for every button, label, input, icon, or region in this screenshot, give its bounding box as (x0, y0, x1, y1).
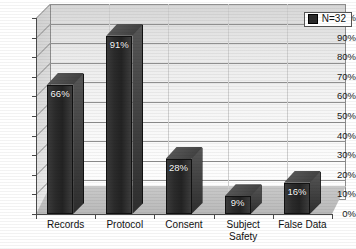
y-axis-tick-label: 50% (324, 111, 356, 121)
bar-value-label: 9% (225, 198, 251, 208)
legend: N=32 (304, 12, 352, 27)
bar: 9% (225, 184, 262, 214)
category-label-line: False Data (273, 219, 332, 231)
bar-front-face (106, 36, 132, 214)
category-label-line: Subject (214, 219, 273, 231)
gridline (50, 63, 346, 64)
y-axis-tick-label: 70% (324, 72, 356, 82)
bar: 28% (166, 147, 203, 214)
y-axis-tick-label: 80% (324, 52, 356, 62)
category-label: False Data (273, 219, 332, 231)
legend-label: N=32 (322, 14, 346, 24)
y-axis-tick-label: 60% (324, 91, 356, 101)
gridline (50, 141, 346, 142)
y-axis-tick-label: 30% (324, 150, 356, 160)
category-label-line: Records (36, 219, 95, 231)
category-label-line: Consent (154, 219, 213, 231)
category-label: Records (36, 219, 95, 231)
bar-side-face (132, 25, 143, 214)
bar-side-face (192, 148, 203, 214)
bar-value-label: 66% (47, 89, 73, 99)
gridline (50, 122, 346, 123)
category-label: Protocol (95, 219, 154, 231)
bar-front-face (47, 85, 73, 214)
gridline (50, 102, 346, 103)
legend-swatch-icon (308, 14, 318, 24)
gridline (50, 24, 346, 25)
x-axis-tick (332, 214, 333, 219)
category-label-line: Protocol (95, 219, 154, 231)
gridline (50, 4, 346, 5)
category-label-line: Safety (214, 231, 273, 243)
x-axis-line (36, 214, 332, 215)
bar-side-face (73, 74, 84, 214)
bar-value-label: 16% (284, 187, 310, 197)
bar-chart: 0%10%20%30%40%50%60%70%80%90%100% 66%91%… (0, 0, 356, 249)
bar: 91% (106, 24, 143, 214)
y-axis-line (36, 18, 37, 215)
y-axis-tick-label: 10% (324, 189, 356, 199)
y-axis-tick-label: 40% (324, 131, 356, 141)
bar: 16% (284, 171, 321, 214)
bar-value-label: 28% (166, 163, 192, 173)
gridline (50, 43, 346, 44)
category-separator (228, 4, 229, 200)
gridline (50, 82, 346, 83)
category-label: Consent (154, 219, 213, 231)
bar: 66% (47, 73, 84, 214)
category-label: SubjectSafety (214, 219, 273, 242)
bar-value-label: 91% (106, 40, 132, 50)
y-axis-tick-label: 90% (324, 33, 356, 43)
y-axis-tick-label: 20% (324, 170, 356, 180)
